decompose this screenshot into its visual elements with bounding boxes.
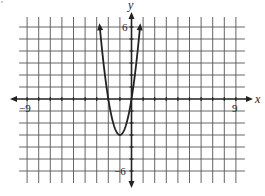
x-axis-right-arrow-icon: [246, 96, 253, 102]
parabola-graph: y x −9 9 6 −6: [0, 0, 265, 196]
x-axis-left-arrow-icon: [10, 96, 17, 102]
y-axis-down-arrow-icon: [129, 181, 135, 188]
x-max-tick-label: 9: [232, 102, 238, 114]
stray-mark: [1, 1, 3, 3]
x-axis-label: x: [254, 92, 261, 106]
y-min-tick-label: −6: [114, 165, 126, 177]
y-axis-up-arrow-icon: [129, 12, 135, 19]
x-min-tick-label: −9: [19, 102, 31, 114]
y-max-tick-label: 6: [122, 21, 128, 33]
y-axis-label: y: [127, 0, 134, 12]
